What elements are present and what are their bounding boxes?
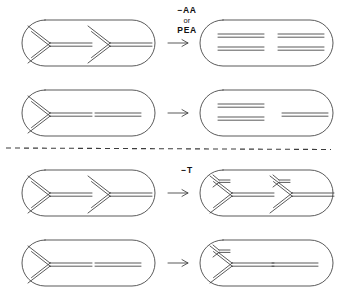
branched-fork-3 (210, 245, 274, 283)
cell-before-row-2 (22, 90, 155, 136)
row-4-arrow (168, 260, 188, 267)
treatment-label-top-line2: or (166, 16, 208, 25)
cell-after-row-4 (200, 240, 333, 286)
replication-figure: −AA or PEA −T (0, 0, 337, 292)
treatment-label-bottom: −T (166, 166, 208, 175)
cell-after-row-1 (200, 20, 333, 66)
branched-fork-1 (210, 175, 274, 213)
cell-after-row-3 (200, 170, 334, 216)
branched-fork-2 (270, 175, 334, 213)
figure-canvas (0, 0, 337, 292)
cell-before-row-1 (22, 20, 155, 66)
cell-before-row-3 (22, 170, 155, 216)
cell-before-row-4 (22, 240, 155, 286)
treatment-label-top-line3: PEA (166, 26, 208, 35)
row-2-arrow (168, 110, 188, 117)
panel-divider (6, 148, 331, 150)
row-3-arrow (168, 190, 188, 197)
cell-after-row-2 (200, 90, 333, 136)
row-1-arrow (168, 40, 188, 47)
treatment-label-top-line1: −AA (166, 6, 208, 15)
